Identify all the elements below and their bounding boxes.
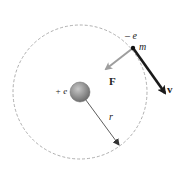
radius-label: r — [109, 112, 113, 122]
electron-charge-label: – e — [125, 31, 137, 41]
nucleus — [70, 82, 90, 102]
diagram-graphics — [0, 0, 180, 172]
velocity-arrow — [133, 48, 165, 93]
bohr-model-diagram: – e m + e F v r — [0, 0, 180, 172]
nucleus-charge-label: + e — [55, 87, 67, 96]
electron-mass-label: m — [139, 42, 146, 52]
electron — [131, 46, 135, 50]
force-label: F — [109, 76, 116, 87]
force-arrow — [106, 48, 133, 69]
velocity-label: v — [167, 84, 173, 95]
